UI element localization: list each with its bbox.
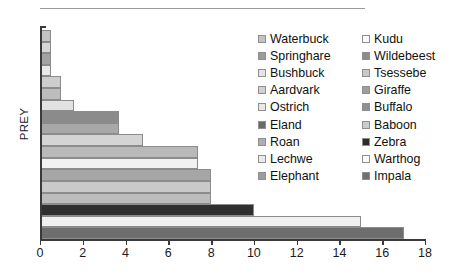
legend-swatch-icon: [258, 86, 266, 94]
bar-zebra[interactable]: [40, 181, 211, 193]
x-tick-14: [339, 239, 340, 245]
legend-label: Warthog: [374, 152, 420, 166]
bar-eland[interactable]: [40, 146, 198, 158]
legend-label: Giraffe: [374, 83, 411, 97]
legend-item-tsessebe[interactable]: Tsessebe: [362, 66, 454, 80]
legend-item-roan[interactable]: Roan: [258, 135, 362, 149]
x-tick-18: [425, 239, 426, 245]
bar-giraffe[interactable]: [40, 111, 119, 123]
legend-swatch-icon: [258, 172, 266, 180]
x-tick-10: [254, 239, 255, 245]
legend-label: Baboon: [374, 118, 417, 132]
bar-lechwe[interactable]: [40, 193, 211, 205]
bar-roan[interactable]: [40, 169, 211, 181]
legend-swatch-icon: [258, 52, 266, 60]
x-tick-label-4: 4: [122, 246, 129, 261]
x-tick-12: [297, 239, 298, 245]
legend-item-kudu[interactable]: Kudu: [362, 32, 454, 46]
bar-bushbuck[interactable]: [40, 76, 61, 88]
legend-label: Zebra: [374, 135, 406, 149]
legend-swatch-icon: [258, 35, 266, 43]
bar-wildebeest[interactable]: [40, 65, 51, 77]
legend-label: Bushbuck: [270, 66, 324, 80]
x-tick-8: [211, 239, 212, 245]
legend-swatch-icon: [258, 121, 266, 129]
x-tick-0: [40, 239, 41, 245]
legend-swatch-icon: [258, 103, 266, 111]
x-axis-tick-labels: 024681012141618: [40, 246, 425, 264]
x-tick-label-16: 16: [375, 246, 389, 261]
legend-swatch-icon: [362, 155, 370, 163]
legend-item-buffalo[interactable]: Buffalo: [362, 100, 454, 114]
legend-swatch-icon: [258, 155, 266, 163]
bar-baboon[interactable]: [40, 158, 198, 170]
bar-row: [40, 204, 425, 216]
legend-swatch-icon: [362, 103, 370, 111]
legend-swatch-icon: [258, 138, 266, 146]
bar-impala[interactable]: [40, 227, 404, 239]
x-tick-label-2: 2: [79, 246, 86, 261]
legend-label: Ostrich: [270, 100, 309, 114]
x-tick-4: [126, 239, 127, 245]
legend-label: Roan: [270, 135, 300, 149]
bar-ostrich[interactable]: [40, 123, 119, 135]
legend-swatch-icon: [362, 69, 370, 77]
legend-item-giraffe[interactable]: Giraffe: [362, 83, 454, 97]
legend-item-waterbuck[interactable]: Waterbuck: [258, 32, 362, 46]
legend-item-impala[interactable]: Impala: [362, 169, 454, 183]
bar-waterbuck[interactable]: [40, 30, 51, 42]
x-axis-ticks: [40, 239, 425, 246]
bar-aardvark[interactable]: [40, 100, 74, 112]
legend-swatch-icon: [362, 138, 370, 146]
legend-label: Waterbuck: [270, 32, 329, 46]
legend-item-warthog[interactable]: Warthog: [362, 152, 454, 166]
legend-item-baboon[interactable]: Baboon: [362, 118, 454, 132]
x-tick-label-8: 8: [208, 246, 215, 261]
x-tick-label-0: 0: [37, 246, 44, 261]
legend-item-bushbuck[interactable]: Bushbuck: [258, 66, 362, 80]
bar-buffalo[interactable]: [40, 134, 143, 146]
y-axis-title: PREY: [18, 94, 30, 154]
legend-item-springhare[interactable]: Springhare: [258, 49, 362, 63]
legend-item-ostrich[interactable]: Ostrich: [258, 100, 362, 114]
x-tick-label-6: 6: [165, 246, 172, 261]
x-tick-label-18: 18: [418, 246, 432, 261]
chart-page: PREY 024681012141618 WaterbuckKuduSpring…: [0, 0, 457, 274]
y-axis-line: [40, 28, 42, 241]
legend-label: Elephant: [270, 169, 319, 183]
legend-swatch-icon: [362, 121, 370, 129]
legend-item-elephant[interactable]: Elephant: [258, 169, 362, 183]
legend-label: Aardvark: [270, 83, 320, 97]
legend-item-wildebeest[interactable]: Wildebeest: [362, 49, 454, 63]
bar-warthog[interactable]: [40, 204, 254, 216]
legend-label: Kudu: [374, 32, 403, 46]
legend-label: Buffalo: [374, 100, 412, 114]
legend-item-eland[interactable]: Eland: [258, 118, 362, 132]
bar-tsessebe[interactable]: [40, 88, 61, 100]
bar-kudu[interactable]: [40, 42, 51, 54]
legend-swatch-icon: [362, 86, 370, 94]
legend-swatch-icon: [362, 35, 370, 43]
legend-label: Impala: [374, 169, 411, 183]
legend-item-zebra[interactable]: Zebra: [362, 135, 454, 149]
legend-label: Eland: [270, 118, 302, 132]
bar-springhare[interactable]: [40, 53, 51, 65]
x-tick-2: [83, 239, 84, 245]
x-tick-16: [382, 239, 383, 245]
legend-item-lechwe[interactable]: Lechwe: [258, 152, 362, 166]
bar-row: [40, 227, 425, 239]
legend-swatch-icon: [258, 69, 266, 77]
x-tick-label-12: 12: [290, 246, 304, 261]
bar-elephant[interactable]: [40, 216, 361, 228]
bar-row: [40, 193, 425, 205]
legend-label: Springhare: [270, 49, 331, 63]
top-divider-rule: [40, 8, 365, 9]
legend-swatch-icon: [362, 172, 370, 180]
bar-row: [40, 216, 425, 228]
legend-item-aardvark[interactable]: Aardvark: [258, 83, 362, 97]
legend-label: Lechwe: [270, 152, 313, 166]
legend-swatch-icon: [362, 52, 370, 60]
x-tick-label-10: 10: [247, 246, 261, 261]
x-tick-label-14: 14: [332, 246, 346, 261]
x-tick-6: [168, 239, 169, 245]
